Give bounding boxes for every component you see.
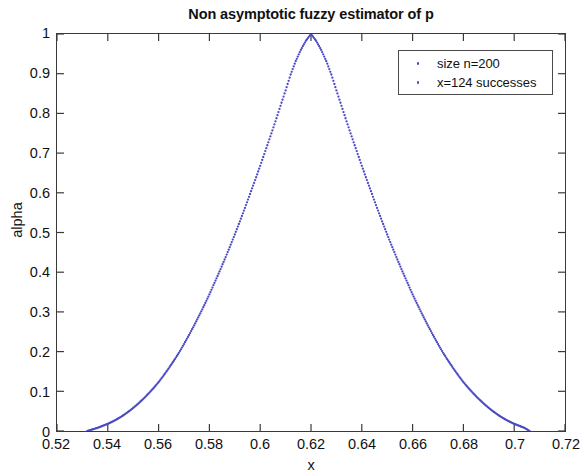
y-tick-label: 0.4 xyxy=(4,265,50,280)
legend-item-label: size n=200 xyxy=(437,56,500,71)
page-title: Non asymptotic fuzzy estimator of p xyxy=(56,6,566,22)
legend-item: size n=200 xyxy=(399,54,552,73)
figure-canvas: Non asymptotic fuzzy estimator of p 00.1… xyxy=(0,0,583,475)
y-tick-label: 0.9 xyxy=(4,66,50,81)
y-tick-label: 1 xyxy=(4,26,50,41)
y-axis-label: alpha xyxy=(9,190,25,250)
y-tick-label: 0.3 xyxy=(4,305,50,320)
y-axis-tick-labels: 00.10.20.30.40.50.60.70.80.91 xyxy=(0,33,50,432)
legend: size n=200 x=124 successes xyxy=(398,50,553,95)
legend-marker-icon xyxy=(399,62,437,65)
y-tick-label: 0.2 xyxy=(4,345,50,360)
x-axis-label: x xyxy=(56,457,566,473)
y-tick-label: 0.8 xyxy=(4,106,50,121)
x-tick-label: 0.72 xyxy=(531,437,583,452)
legend-item: x=124 successes xyxy=(399,73,552,92)
legend-item-label: x=124 successes xyxy=(437,75,536,90)
legend-marker-icon xyxy=(399,81,437,84)
y-tick-label: 0.7 xyxy=(4,146,50,161)
y-tick-label: 0.1 xyxy=(4,385,50,400)
x-axis-tick-labels: 0.520.540.560.580.60.620.640.660.680.70.… xyxy=(56,437,566,457)
